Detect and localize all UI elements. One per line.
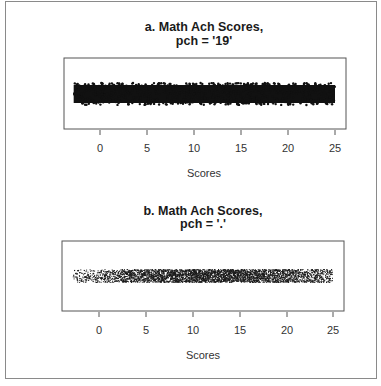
panel-b-tick-label: 20 [281, 324, 293, 336]
panel-a-tick-label: 5 [144, 142, 150, 154]
panel-b-tick-label: 25 [327, 324, 339, 336]
panel-b-title-line2: pch = '.' [180, 217, 226, 231]
panel-a: a. Math Ach Scores, pch = '19' 0 5 10 15… [64, 20, 346, 179]
panel-a-x-axis-label: Scores [187, 167, 222, 179]
panel-a-x-ticks [100, 130, 335, 135]
panel-a-tick-label: 20 [282, 142, 294, 154]
panel-a-title-line2: pch = '19' [176, 34, 232, 48]
panel-a-tick-label: 25 [329, 142, 341, 154]
panel-b-title-line1: b. Math Ach Scores, [143, 204, 262, 218]
panel-b-tick-label: 15 [234, 324, 246, 336]
panel-a-tick-label: 15 [235, 142, 247, 154]
panel-a-tick-label: 0 [97, 142, 103, 154]
panel-a-tick-label: 10 [188, 142, 200, 154]
panel-b-x-axis-label: Scores [186, 349, 221, 361]
panel-b-tick-label: 10 [187, 324, 199, 336]
panel-b-tick-label: 0 [96, 324, 102, 336]
panel-a-scatter-points [73, 82, 336, 106]
panel-b: b. Math Ach Scores, pch = '.' 0 5 10 15 … [62, 204, 344, 361]
panel-b-tick-label: 5 [143, 324, 149, 336]
figure-canvas: a. Math Ach Scores, pch = '19' 0 5 10 15… [0, 0, 381, 386]
panel-a-title-line1: a. Math Ach Scores, [145, 20, 263, 34]
panel-b-x-ticks [99, 312, 333, 317]
